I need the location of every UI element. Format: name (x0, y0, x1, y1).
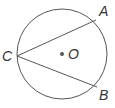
chord-cb (17, 56, 97, 87)
label-c: C (2, 48, 13, 64)
circle-diagram: O A B C (0, 0, 115, 108)
chord-ca (17, 20, 96, 56)
label-a: A (98, 3, 108, 19)
label-b: B (99, 87, 108, 103)
label-o: O (68, 46, 79, 62)
center-point (60, 52, 64, 56)
